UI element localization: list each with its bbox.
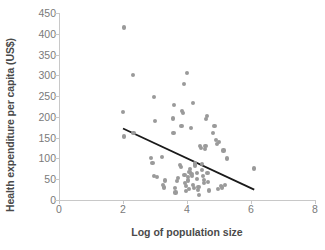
data-point [221,148,225,152]
y-tick-label: 450 [16,8,56,19]
x-tickmark [123,200,124,204]
data-point [162,185,166,189]
data-point [206,180,210,184]
data-point [252,166,256,170]
y-tick-label: 350 [16,49,56,60]
y-tick-label: 300 [16,70,56,81]
y-tick-label: 200 [16,111,56,122]
x-tick-label: 4 [172,203,202,215]
data-point [186,178,190,182]
data-point [131,131,135,135]
x-tickmark [251,200,252,204]
scatter-chart: Health expenditure per capita (US$) Log … [0,0,325,250]
x-tick-label: 2 [108,203,138,215]
data-point [182,82,186,86]
x-tick-label: 6 [236,203,266,215]
data-point [197,193,201,197]
y-tick-label: 50 [16,174,56,185]
x-tick-label: 0 [44,203,74,215]
data-point [150,161,154,165]
data-point [212,124,216,128]
y-tick-label: 250 [16,91,56,102]
data-point [195,177,199,181]
data-point [171,131,175,135]
x-tick-label: 8 [300,203,325,215]
data-point [173,190,177,194]
y-tick-label: 100 [16,153,56,164]
x-axis-title: Log of population size [59,226,315,238]
data-point [179,124,183,128]
y-tick-label: 400 [16,28,56,39]
data-point [171,116,175,120]
data-point [211,131,215,135]
data-point [207,188,211,192]
data-point [179,165,183,169]
data-point [155,175,159,179]
plot-area [59,13,315,200]
x-tickmark [187,200,188,204]
data-point [163,178,167,182]
data-point [122,25,126,29]
data-point [152,95,156,99]
x-tickmark [315,200,316,204]
y-tick-label: 150 [16,132,56,143]
data-point [193,161,197,165]
data-point [196,185,200,189]
data-point [205,171,209,175]
data-point [205,114,209,118]
data-point [225,156,229,160]
x-tickmark [59,200,60,204]
data-point [131,73,135,77]
data-point [122,134,126,138]
